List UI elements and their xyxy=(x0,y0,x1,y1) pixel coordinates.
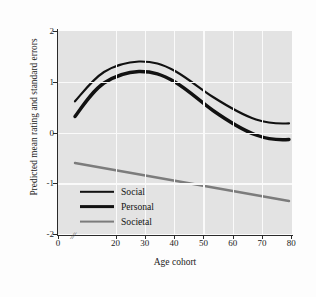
y-tick-label: 1 xyxy=(26,77,54,87)
chart-legend: Social Personal Societal xyxy=(80,184,154,229)
legend-swatch-societal xyxy=(80,217,114,227)
chart-figure: Predicted mean rating and standard error… xyxy=(0,0,316,297)
x-tick-label: 0 xyxy=(45,238,71,248)
y-tick-label: 0 xyxy=(26,128,54,138)
x-tick-label: 60 xyxy=(220,238,246,248)
legend-item-societal: Societal xyxy=(80,214,154,229)
legend-item-social: Social xyxy=(80,184,154,199)
x-tick-label: 20 xyxy=(103,238,129,248)
y-tick-label: 2 xyxy=(26,26,54,36)
plot-area: Social Personal Societal xyxy=(58,31,292,234)
gridline-horizontal xyxy=(58,133,292,134)
legend-label-personal: Personal xyxy=(121,201,154,212)
x-tick-label: 70 xyxy=(249,238,275,248)
x-tick-label: 40 xyxy=(161,238,187,248)
x-tick-label: 80 xyxy=(278,238,304,248)
y-axis-spine xyxy=(57,29,58,236)
legend-label-societal: Societal xyxy=(121,216,152,227)
gridline-horizontal xyxy=(58,82,292,83)
y-tick-label: -1 xyxy=(26,178,54,188)
legend-swatch-personal xyxy=(80,202,114,212)
legend-label-social: Social xyxy=(121,186,145,197)
x-tick-label: 30 xyxy=(132,238,158,248)
x-tick-label: 50 xyxy=(190,238,216,248)
legend-item-personal: Personal xyxy=(80,199,154,214)
legend-swatch-social xyxy=(80,187,114,197)
y-axis-tick-labels: 2 1 0 -1 -2 xyxy=(26,0,54,297)
series-line-social xyxy=(75,61,289,123)
x-axis-label: Age cohort xyxy=(58,257,292,267)
